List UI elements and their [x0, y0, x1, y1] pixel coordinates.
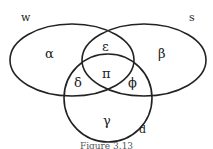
region-delta: δ [74, 75, 82, 90]
figure-caption: Figure 3.13 [0, 141, 213, 149]
region-phi: ϕ [128, 75, 137, 90]
set-d-label: d [139, 123, 146, 136]
region-alpha: α [45, 46, 54, 61]
region-gamma: γ [103, 113, 111, 128]
set-w-label: w [21, 11, 31, 24]
region-epsilon: ε [102, 39, 109, 54]
set-s-label: s [189, 11, 195, 24]
set-w-ellipse [10, 24, 134, 96]
venn-diagram: w s d α β γ δ ε ϕ π [0, 0, 213, 149]
region-pi: π [102, 66, 111, 81]
set-s-ellipse [82, 24, 206, 96]
region-beta: β [158, 46, 166, 61]
